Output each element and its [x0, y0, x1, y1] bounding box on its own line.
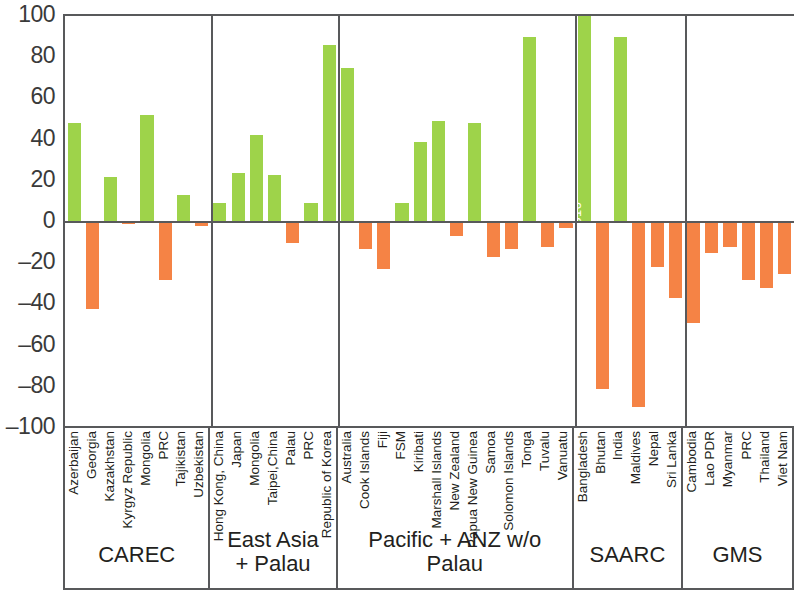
category-tick-label: Bangladesh	[574, 428, 592, 534]
category-tick-label-text: Kiribati	[412, 431, 426, 472]
group-separator	[575, 16, 577, 426]
y-axis-tick: 80	[30, 44, 55, 67]
group-separator	[685, 16, 687, 426]
bar[interactable]	[632, 222, 645, 407]
category-tick-label: Azerbaijan	[65, 428, 83, 534]
category-tick-label-text: Hong Kong, China	[213, 431, 227, 541]
y-axis-tick: –60	[18, 332, 55, 355]
category-tick-label: Kyrgyz Republic	[119, 428, 137, 534]
bar[interactable]	[232, 173, 245, 223]
category-tick-label-text: Kazakhstan	[103, 431, 117, 502]
category-names: CambodiaLao PDRMyanmarPRCThailandViet Na…	[683, 428, 792, 534]
bar[interactable]	[286, 222, 299, 243]
category-tick-label-text: Lao PDR	[703, 431, 717, 486]
category-tick-label: Marshall Islands	[428, 428, 446, 528]
category-tick-label-text: PRC	[740, 431, 754, 460]
category-tick-label: FSM	[392, 428, 410, 528]
category-tick-label-text: Tajikistan	[175, 431, 189, 487]
category-group: AustraliaCook IslandsFijiFSMKiribatiMars…	[338, 428, 574, 588]
category-tick-label: Tajikistan	[173, 428, 191, 534]
y-axis: 100806040200–20–40–60–80–100	[0, 0, 63, 430]
bar[interactable]	[159, 222, 172, 280]
bar[interactable]	[377, 222, 390, 269]
category-tick-label-text: Georgia	[85, 431, 99, 479]
y-axis-tick: 40	[30, 126, 55, 149]
category-tick-label-text: Myanmar	[722, 431, 736, 487]
group-title: East Asia+ Palau	[210, 528, 335, 588]
category-tick-label: PRC	[300, 428, 318, 528]
bar[interactable]	[687, 222, 700, 323]
bar[interactable]	[268, 175, 281, 223]
bar[interactable]	[596, 222, 609, 389]
y-axis-tick: –20	[18, 250, 55, 273]
bar[interactable]	[705, 222, 718, 253]
bar[interactable]	[86, 222, 99, 309]
category-tick-label: Fiji	[374, 428, 392, 528]
bar[interactable]	[723, 222, 736, 247]
y-axis-tick: 60	[30, 85, 55, 108]
bar[interactable]	[359, 222, 372, 249]
category-tick-label: Vanuatu	[554, 428, 572, 528]
category-tick-label-text: Sri Lanka	[665, 431, 679, 488]
bar[interactable]	[487, 222, 500, 257]
y-axis-tick: –100	[6, 415, 55, 438]
y-axis-tick: –80	[18, 373, 55, 396]
category-tick-label-text: Palau	[284, 431, 298, 466]
bar[interactable]	[432, 121, 445, 223]
category-tick-label: New Zealand	[446, 428, 464, 528]
category-tick-label: Samoa	[482, 428, 500, 528]
category-tick-label: Kazakhstan	[101, 428, 119, 534]
category-tick-label: Lao PDR	[701, 428, 719, 534]
bar[interactable]	[450, 222, 463, 236]
group-title: CAREC	[65, 534, 208, 588]
category-tick-label: Taipei,China	[264, 428, 282, 528]
category-tick-label: Palau	[282, 428, 300, 528]
y-axis-tick: 0	[43, 209, 55, 232]
category-tick-label-text: Mongolia	[248, 431, 262, 486]
category-names: Hong Kong, ChinaJapanMongoliaTaipei,Chin…	[210, 428, 335, 528]
category-tick-label-text: PRC	[302, 431, 316, 460]
group-title: GMS	[683, 534, 792, 588]
bar[interactable]	[177, 195, 190, 223]
category-names: AustraliaCook IslandsFijiFSMKiribatiMars…	[338, 428, 572, 528]
bar[interactable]	[341, 68, 354, 224]
category-tick-label-text: Solomon Islands	[502, 431, 516, 531]
bar[interactable]	[323, 45, 336, 223]
category-tick-label-text: New Zealand	[448, 431, 462, 511]
category-tick-label-text: Azerbaijan	[67, 431, 81, 495]
bar[interactable]	[651, 222, 664, 267]
group-separator	[211, 16, 213, 426]
category-tick-label-text: Cambodia	[685, 431, 699, 493]
category-tick-label-text: FSM	[394, 431, 408, 460]
category-tick-label: Nepal	[645, 428, 663, 534]
plot-area: 1,310	[63, 14, 794, 426]
bar[interactable]	[742, 222, 755, 280]
bar[interactable]	[250, 135, 263, 223]
category-tick-label-text: Nepal	[647, 431, 661, 466]
bar[interactable]	[104, 177, 117, 223]
bar[interactable]	[541, 222, 554, 247]
bar[interactable]	[669, 222, 682, 298]
category-group: BangladeshBhutanIndiaMaldivesNepalSri La…	[574, 428, 683, 588]
category-tick-label: Tonga	[518, 428, 536, 528]
bar[interactable]	[760, 222, 773, 288]
category-tick-label: Hong Kong, China	[210, 428, 228, 528]
bar[interactable]	[414, 142, 427, 223]
category-tick-label-text: Tonga	[520, 431, 534, 468]
category-tick-label-text: Vanuatu	[556, 431, 570, 480]
bar[interactable]	[505, 222, 518, 249]
bar[interactable]	[140, 115, 153, 223]
bar[interactable]	[468, 123, 481, 223]
group-title: SAARC	[574, 534, 681, 588]
bar[interactable]	[68, 123, 81, 223]
category-tick-label-text: Uzbekistan	[193, 431, 207, 498]
category-tick-label: Maldives	[627, 428, 645, 534]
category-label-band: AzerbaijanGeorgiaKazakhstanKyrgyz Republ…	[63, 426, 794, 590]
category-group: AzerbaijanGeorgiaKazakhstanKyrgyz Republ…	[65, 428, 210, 588]
category-tick-label-text: Taipei,China	[266, 431, 280, 505]
bar[interactable]: 1,310	[578, 14, 591, 223]
bar[interactable]	[614, 37, 627, 223]
category-tick-label: Mongolia	[137, 428, 155, 534]
bar[interactable]	[523, 37, 536, 223]
bar[interactable]	[778, 222, 791, 274]
